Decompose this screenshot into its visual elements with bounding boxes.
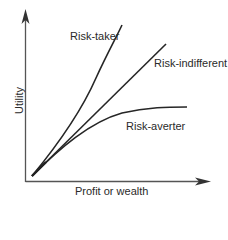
x-axis-label: Profit or wealth: [75, 186, 148, 197]
y-axis-label: Utility: [14, 84, 25, 118]
risk-taker-label: Risk-taker: [70, 31, 120, 42]
risk-averter-curve: [32, 107, 187, 176]
origin-bundle: [32, 162, 46, 176]
risk-averter-label: Risk-averter: [126, 121, 185, 132]
risk-indifferent-label: Risk-indifferent: [154, 58, 227, 69]
